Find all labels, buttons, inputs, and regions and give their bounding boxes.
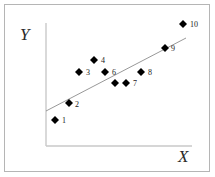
data-point-marker — [122, 79, 130, 87]
data-point-marker — [101, 68, 109, 76]
point-label: 8 — [148, 69, 152, 77]
point-label: 1 — [62, 117, 66, 125]
y-axis-label: Y — [20, 26, 29, 43]
point-label: 2 — [75, 101, 79, 109]
point-label: 7 — [133, 80, 137, 88]
point-label: 6 — [112, 69, 116, 77]
data-point-marker — [90, 56, 98, 64]
point-label: 10 — [190, 21, 198, 29]
point-label: 3 — [86, 69, 90, 77]
axes-group — [46, 23, 192, 146]
data-point-marker — [179, 20, 187, 28]
data-point-marker — [75, 68, 83, 76]
data-points-group — [51, 20, 187, 124]
point-label: 4 — [101, 57, 105, 65]
x-axis-label: X — [178, 148, 188, 165]
data-point-marker — [51, 116, 59, 124]
point-label: 9 — [171, 45, 175, 53]
data-point-marker — [111, 79, 119, 87]
data-point-marker — [137, 68, 145, 76]
scatter-plot-figure: Y X 1 2 3 4 7 6 8 9 10 — [0, 0, 215, 177]
